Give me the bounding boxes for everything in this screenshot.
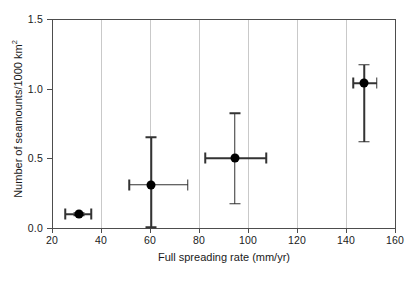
x-errorbar-cap-right-point-3 [266,153,268,164]
x-tick-label-100: 100 [239,234,257,246]
x-tick-label-40: 40 [95,234,107,246]
x-tick-120 [297,228,298,233]
figure-caption-partial [0,274,419,284]
y-tick-0.0 [47,228,52,229]
gridline-x-40 [101,19,102,228]
x-tick-label-140: 140 [337,234,355,246]
x-errorbar-cap-right-point-4 [376,78,378,89]
marker-point-2 [147,180,156,189]
x-tick-60 [150,228,151,233]
x-tick-label-20: 20 [46,234,58,246]
x-tick-20 [52,228,53,233]
x-tick-40 [101,228,102,233]
plot-top-border [52,19,396,20]
gridline-x-140 [346,19,347,228]
gridline-x-100 [248,19,249,228]
y-axis-line [52,19,53,229]
y-errorbar-cap-upper-point-4 [359,64,370,66]
marker-point-4 [360,79,369,88]
x-tick-label-120: 120 [288,234,306,246]
x-tick-140 [346,228,347,233]
plot-right-border [395,19,396,229]
y-tick-1.0 [47,89,52,90]
x-tick-80 [199,228,200,233]
y-axis-title-superscript: 2 [10,40,19,44]
y-axis-title: Number of seamounts/1000 km2 [12,9,24,229]
x-tick-100 [248,228,249,233]
x-errorbar-cap-left-point-3 [204,153,206,164]
y-errorbar-point-4 [364,65,366,142]
y-errorbar-cap-upper-point-3 [229,112,240,114]
x-errorbar-cap-left-point-1 [65,209,67,220]
x-tick-label-80: 80 [193,234,205,246]
gridline-x-120 [297,19,298,228]
y-tick-0.5 [47,158,52,159]
x-tick-label-60: 60 [144,234,156,246]
x-errorbar-cap-left-point-4 [353,78,355,89]
y-errorbar-cap-upper-point-2 [146,137,157,139]
figure-container: 20406080100120140160 0.00.51.01.5 Full s… [0,0,419,284]
gridline-x-80 [199,19,200,228]
x-errorbar-cap-left-point-2 [128,179,130,190]
y-errorbar-cap-lower-point-2 [146,227,157,229]
x-errorbar-cap-right-point-1 [90,209,92,220]
x-axis-title: Full spreading rate (mm/yr) [52,251,396,263]
marker-point-3 [230,154,239,163]
y-errorbar-cap-lower-point-4 [359,141,370,143]
x-errorbar-point-2 [129,184,188,186]
x-axis-line [52,228,396,229]
x-tick-160 [395,228,396,233]
y-errorbar-cap-lower-point-3 [229,203,240,205]
x-tick-label-160: 160 [386,234,404,246]
y-axis-title-text: Number of seamounts/1000 km [12,44,24,197]
x-errorbar-cap-right-point-2 [187,179,189,190]
marker-point-1 [74,210,83,219]
y-tick-1.5 [47,19,52,20]
